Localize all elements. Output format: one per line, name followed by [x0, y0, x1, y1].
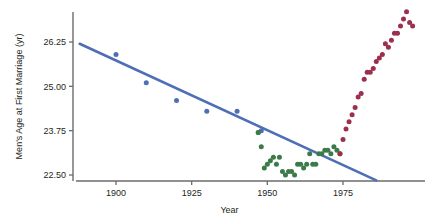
- data-point: [359, 91, 364, 96]
- data-point: [347, 119, 352, 124]
- data-point: [292, 173, 297, 178]
- scatter-chart: 22.5023.7525.0026.251900192519501975Year…: [0, 0, 431, 221]
- y-axis-tick-label: 23.75: [43, 126, 66, 136]
- data-point: [204, 109, 209, 114]
- x-axis-tick-label: 1900: [106, 188, 126, 198]
- data-point: [389, 38, 394, 43]
- data-point: [404, 9, 409, 14]
- data-point: [380, 52, 385, 57]
- data-point: [144, 80, 149, 85]
- y-axis-tick-label: 22.50: [43, 170, 66, 180]
- data-point: [395, 31, 400, 36]
- data-point: [344, 126, 349, 131]
- y-axis-tick-label: 26.25: [43, 37, 66, 47]
- data-point: [398, 24, 403, 29]
- data-point: [114, 52, 119, 57]
- chart-plot-area: 22.5023.7525.0026.251900192519501975Year…: [0, 0, 431, 221]
- data-point: [337, 151, 342, 156]
- y-axis-tick-label: 25.00: [43, 82, 66, 92]
- regression-trend-line: [80, 44, 377, 181]
- axes-group: [69, 12, 425, 185]
- data-point: [401, 16, 406, 21]
- data-point: [410, 24, 415, 29]
- data-point: [313, 162, 318, 167]
- trend-line-group: [80, 44, 377, 181]
- axis-labels-group: 22.5023.7525.0026.251900192519501975Year…: [14, 34, 353, 215]
- data-point: [256, 130, 261, 135]
- data-point: [353, 105, 358, 110]
- data-point: [341, 137, 346, 142]
- x-axis-tick-label: 1925: [182, 188, 202, 198]
- data-point: [307, 151, 312, 156]
- data-point: [386, 45, 391, 50]
- data-point: [271, 155, 276, 160]
- data-point: [235, 109, 240, 114]
- data-point: [328, 151, 333, 156]
- y-axis-title: Men's Age at First Marriage (yr): [14, 34, 24, 160]
- data-point: [362, 77, 367, 82]
- x-axis-tick-label: 1950: [257, 188, 277, 198]
- data-point: [277, 155, 282, 160]
- data-points-group: [114, 9, 416, 177]
- x-axis-tick-label: 1975: [333, 188, 353, 198]
- data-point: [350, 112, 355, 117]
- data-point: [304, 162, 309, 167]
- data-point: [259, 144, 264, 149]
- x-axis-title: Year: [220, 205, 238, 215]
- data-point: [371, 66, 376, 71]
- data-point: [174, 98, 179, 103]
- data-point: [274, 162, 279, 167]
